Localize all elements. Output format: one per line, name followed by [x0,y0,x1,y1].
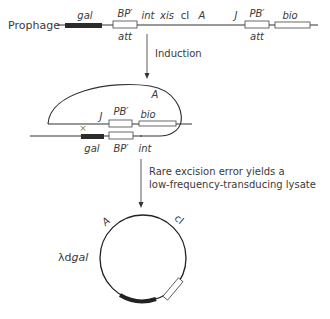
loop-int-label: int [138,143,152,154]
loop-j-label: J [98,111,103,122]
att-label-right: att [250,31,265,42]
att-label-left: att [118,31,133,42]
pb-label: PB′ [249,8,265,19]
prophage-label: Prophage [8,19,60,32]
xis-label: xis [159,10,174,21]
circle-bio-box [163,278,183,300]
loop-a-label: A [151,89,159,100]
gal-gene-block [65,23,102,28]
gal-label: gal [77,10,92,21]
bp-att-box [113,21,137,28]
loop-bp-label: BP′ [113,143,129,154]
pb-att-box [245,21,269,28]
bio-label: bio [282,10,297,21]
crossover-mark: × [79,123,87,133]
loop-gal-label: gal [84,143,99,154]
induction-arrowhead [145,73,150,79]
loop-bio-label: bio [140,109,155,120]
bp-label: BP′ [117,8,133,19]
loop-gal-block [81,134,104,139]
ci-label: cI [181,10,189,21]
excision-arrowhead [139,202,144,208]
loop-pb-box [109,120,132,127]
bio-gene-box [275,22,310,28]
loop-bp-box [109,132,133,139]
circle-gal-block [120,295,156,301]
circle-ci-label: cI [172,212,186,226]
j-label: J [233,10,238,21]
diagram-canvas: Prophage gal BP′ int xis cI A J PB′ bio … [0,0,330,319]
a-label: A [198,10,206,21]
excision-text-line2: low-frequency-transducing lysate [149,179,316,190]
loop-bio-box [139,121,176,126]
ldgal-label: λdgal [58,251,88,264]
loop-pb-label: PB′ [113,106,129,117]
circle-a-label: A [99,215,112,229]
excision-text-line1: Rare excision error yields a [149,166,285,177]
int-label: int [141,10,155,21]
induction-label: Induction [155,48,202,59]
